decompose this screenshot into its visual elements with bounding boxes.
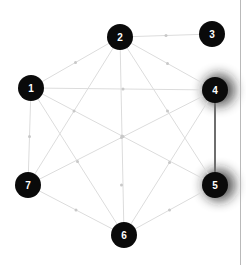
- edge-layer: [28, 34, 215, 235]
- edge-midpoint-dot-2-5: [166, 110, 169, 113]
- node-circle-5[interactable]: [202, 172, 228, 198]
- graph-node-4[interactable]: 4: [202, 77, 228, 103]
- graph-node-5[interactable]: 5: [202, 172, 228, 198]
- graph-figure: 1234567: [0, 0, 246, 265]
- edge-midpoint-dot-1-7: [28, 135, 31, 138]
- edge-midpoint-dot-5-6: [168, 209, 171, 212]
- graph-canvas: 1234567: [0, 0, 246, 265]
- node-circle-2[interactable]: [107, 24, 133, 50]
- edge-midpoint-dot-1-6: [76, 160, 79, 163]
- edge-midpoint-dot-6-7: [75, 209, 78, 212]
- node-circle-4[interactable]: [202, 77, 228, 103]
- node-circle-1[interactable]: [18, 75, 44, 101]
- edge-midpoint-dot-4-7: [120, 136, 123, 139]
- edge-midpoint-dot-5-7: [120, 184, 123, 187]
- edge-midpoint-dot-4-6: [168, 161, 171, 164]
- node-circle-6[interactable]: [111, 222, 137, 248]
- graph-node-1[interactable]: 1: [18, 75, 44, 101]
- node-circle-7[interactable]: [15, 172, 41, 198]
- graph-node-2[interactable]: 2: [107, 24, 133, 50]
- graph-node-7[interactable]: 7: [15, 172, 41, 198]
- edge-midpoint-dot-1-4: [122, 88, 125, 91]
- node-circle-3[interactable]: [199, 21, 225, 47]
- graph-node-3[interactable]: 3: [199, 21, 225, 47]
- edge-midpoint-dot-2-3: [165, 34, 168, 37]
- graph-node-6[interactable]: 6: [111, 222, 137, 248]
- edge-midpoint-dot-2-7: [73, 110, 76, 113]
- panel-right-border: [240, 0, 241, 265]
- edge-midpoint-dot-2-4: [166, 62, 169, 65]
- edge-midpoint-dot-1-2: [74, 61, 77, 64]
